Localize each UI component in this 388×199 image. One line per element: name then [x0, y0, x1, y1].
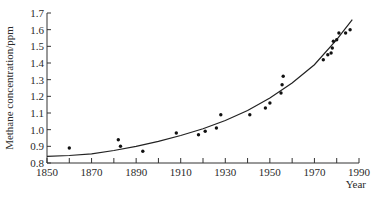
y-axis-label: Methane concentration/ppm: [3, 26, 15, 150]
data-point: [348, 28, 351, 31]
methane-chart: 0.80.91.01.11.21.31.41.51.61.71850187018…: [0, 0, 388, 199]
y-tick-label: 1.2: [30, 90, 44, 102]
y-tick-label: 1.5: [30, 40, 44, 52]
data-point: [117, 138, 120, 141]
data-point: [248, 113, 251, 116]
data-point: [197, 133, 200, 136]
data-point: [264, 106, 267, 109]
data-points: [68, 28, 352, 153]
x-tick-label: 1990: [348, 166, 371, 178]
data-point: [331, 46, 334, 49]
data-point: [215, 126, 218, 129]
y-tick-label: 1.3: [30, 74, 44, 86]
x-tick-label: 1910: [170, 166, 193, 178]
data-point: [282, 75, 285, 78]
y-tick-label: 1.0: [30, 124, 44, 136]
data-point: [279, 91, 282, 94]
data-point: [322, 58, 325, 61]
data-point: [119, 145, 122, 148]
data-point: [141, 150, 144, 153]
data-point: [204, 130, 207, 133]
x-tick-label: 1850: [36, 166, 59, 178]
x-tick-label: 1870: [81, 166, 104, 178]
data-point: [326, 53, 329, 56]
data-point: [175, 131, 178, 134]
y-tick-label: 1.6: [30, 24, 44, 36]
x-tick-label: 1890: [125, 166, 148, 178]
y-tick-label: 1.7: [30, 7, 44, 19]
x-axis-label: Year: [346, 178, 367, 190]
data-point: [337, 31, 340, 34]
data-point: [332, 40, 335, 43]
data-point: [268, 101, 271, 104]
x-tick-label: 1950: [259, 166, 282, 178]
data-point: [68, 146, 71, 149]
y-tick-label: 0.9: [30, 140, 44, 152]
data-point: [335, 38, 338, 41]
axes: 0.80.91.01.11.21.31.41.51.61.71850187018…: [30, 7, 370, 178]
data-point: [219, 113, 222, 116]
data-point: [344, 31, 347, 34]
data-point: [329, 51, 332, 54]
y-tick-label: 1.1: [30, 107, 44, 119]
y-tick-label: 1.4: [30, 57, 44, 69]
data-point: [280, 83, 283, 86]
x-tick-label: 1930: [214, 166, 237, 178]
x-tick-label: 1970: [303, 166, 326, 178]
